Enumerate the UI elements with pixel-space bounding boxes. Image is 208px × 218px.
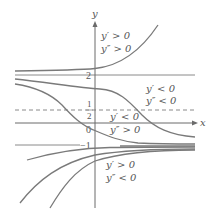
tick-label-2: 2 <box>86 70 91 81</box>
region-label-above-2: y′ > 0 y″ > 0 <box>100 30 132 54</box>
svg-text:y″ < 0: y″ < 0 <box>105 172 137 183</box>
x-axis-arrow-icon <box>192 121 198 126</box>
region-label-below-neg1: y′ > 0 y″ < 0 <box>105 159 137 183</box>
solution-curves-diagram: x y 2 1 2 0 −1 y′ > 0 y″ > 0 y′ < 0 y″ <… <box>0 0 208 218</box>
x-axis-label: x <box>200 117 206 128</box>
tick-label-half-denominator: 2 <box>87 111 92 121</box>
svg-text:y″ > 0: y″ > 0 <box>109 124 141 135</box>
svg-text:y′ > 0: y′ > 0 <box>105 159 136 170</box>
region-label-between-half-and-2: y′ < 0 y″ < 0 <box>145 83 177 106</box>
y-axis-label: y <box>91 8 98 19</box>
y-axis-arrow-icon <box>93 21 98 27</box>
svg-text:y″ > 0: y″ > 0 <box>100 43 132 54</box>
svg-text:y′ > 0: y′ > 0 <box>100 30 131 41</box>
origin-label: 0 <box>86 124 91 135</box>
svg-text:y′ < 0: y′ < 0 <box>145 83 176 94</box>
svg-text:y″ < 0: y″ < 0 <box>145 95 177 106</box>
tick-label-half-numerator: 1 <box>87 99 92 109</box>
svg-text:y′ < 0: y′ < 0 <box>109 111 140 122</box>
solution-curve-above-2 <box>15 25 158 71</box>
